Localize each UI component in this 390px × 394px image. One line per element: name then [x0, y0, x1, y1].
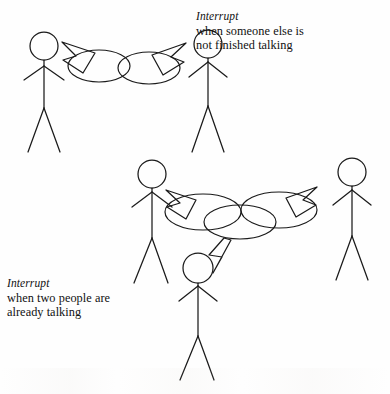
stick-figure-icon-top-left — [24, 32, 64, 152]
speech-bubble-icon-top-right — [118, 52, 180, 84]
stick-figure-icon-mid-right — [333, 158, 371, 280]
caption-bottom-line1: when two people are — [7, 291, 110, 306]
caption-interrupt-not-finished: Interrupt when someone else is not finis… — [196, 10, 304, 53]
stick-figure-icon-mid-left — [132, 160, 172, 283]
caption-top-lead: Interrupt — [196, 10, 304, 24]
caption-bottom-line2: already talking — [7, 305, 110, 320]
speech-tail-icon-mid-down — [209, 238, 231, 273]
caption-bottom-lead: Interrupt — [7, 277, 110, 291]
caption-top-line2: not finished talking — [196, 38, 304, 53]
caption-top-line1: when someone else is — [196, 24, 304, 39]
diagram-canvas: Interrupt when someone else is not finis… — [0, 0, 390, 394]
stick-figure-icon-bottom-center — [179, 253, 217, 380]
scene-three-people — [132, 158, 371, 380]
speech-bubble-icon-mid-center — [204, 205, 276, 239]
interrupt-diagram-svg — [0, 0, 390, 394]
caption-interrupt-already-talking: Interrupt when two people are already ta… — [7, 277, 110, 320]
